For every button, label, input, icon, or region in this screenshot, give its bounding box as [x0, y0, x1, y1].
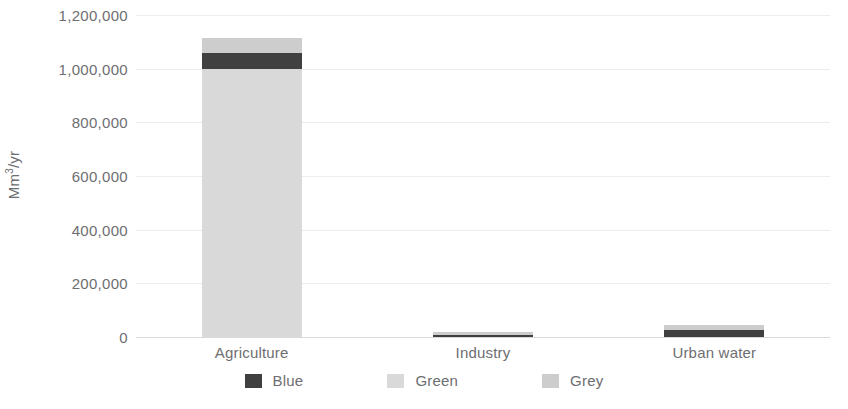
y-axis-title-exponent: 3: [4, 168, 15, 174]
plot-area: [136, 15, 830, 338]
y-axis-tick-label: 1,200,000: [28, 8, 128, 23]
gridline: [136, 15, 830, 16]
bar-segment-blue[interactable]: [202, 53, 302, 69]
y-axis-tick-label: 600,000: [28, 169, 128, 184]
legend-item-green[interactable]: Green: [387, 372, 458, 389]
x-axis-category-labels: AgricultureIndustryUrban water: [136, 344, 830, 368]
y-axis-tick-label: 400,000: [28, 222, 128, 237]
y-axis-tick-label: 0: [28, 330, 128, 345]
x-axis-category-label: Agriculture: [215, 344, 289, 361]
legend-swatch-green: [387, 374, 404, 388]
chart-legend: BlueGreenGrey: [0, 372, 848, 389]
legend-swatch-grey: [542, 374, 559, 388]
y-axis-tick-labels: 0200,000400,000600,000800,0001,000,0001,…: [28, 0, 128, 409]
bar-segment-green[interactable]: [202, 69, 302, 337]
y-axis-tick-label: 800,000: [28, 115, 128, 130]
legend-item-blue[interactable]: Blue: [245, 372, 304, 389]
y-axis-tick-label: 1,000,000: [28, 61, 128, 76]
bar-stack[interactable]: [202, 38, 302, 337]
y-axis-tick-label: 200,000: [28, 276, 128, 291]
bar-segment-blue[interactable]: [433, 335, 533, 337]
bar-stack[interactable]: [433, 332, 533, 337]
x-axis-line: [136, 337, 830, 338]
legend-label: Green: [415, 372, 458, 389]
legend-item-grey[interactable]: Grey: [542, 372, 603, 389]
stacked-bar-chart: Mm3/yr 0200,000400,000600,000800,0001,00…: [0, 0, 848, 409]
x-axis-category-label: Industry: [456, 344, 511, 361]
y-axis-title-text: Mm: [5, 174, 22, 199]
bar-stack[interactable]: [664, 325, 764, 337]
legend-label: Blue: [273, 372, 304, 389]
legend-label: Grey: [570, 372, 603, 389]
x-axis-category-label: Urban water: [672, 344, 756, 361]
legend-swatch-blue: [245, 374, 262, 388]
bar-segment-blue[interactable]: [664, 330, 764, 337]
y-axis-title: Mm3/yr: [4, 120, 22, 230]
bar-segment-grey[interactable]: [202, 38, 302, 53]
y-axis-title-unit: /yr: [5, 151, 22, 168]
